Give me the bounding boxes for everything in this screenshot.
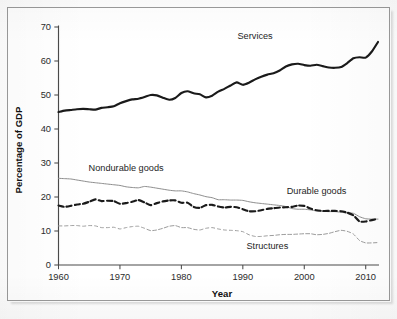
y-tick-labels: 010203040506070 <box>41 22 59 270</box>
x-tick-labels: 196019701980199020002010 <box>48 265 376 282</box>
series-lines-group <box>59 42 379 243</box>
y-tick-label: 0 <box>46 260 51 270</box>
x-axis-title: Year <box>212 288 233 299</box>
series-annotations-group: ServicesNondurable goodsDurable goodsStr… <box>89 31 347 251</box>
x-tick-label: 2010 <box>355 272 376 282</box>
series-line-durable-goods <box>59 199 379 221</box>
series-annotation-nondurable-goods: Nondurable goods <box>89 163 164 173</box>
series-line-services <box>59 42 379 112</box>
x-tick-label: 1990 <box>232 272 253 282</box>
y-axis-title: Percentage of GDP <box>13 106 24 194</box>
series-annotation-services: Services <box>237 31 273 41</box>
x-tick-label: 1960 <box>48 272 69 282</box>
y-tick-label: 20 <box>41 192 51 202</box>
series-line-nondurable-goods <box>59 178 379 219</box>
x-tick-label: 2000 <box>294 272 315 282</box>
y-tick-label: 60 <box>41 56 51 66</box>
series-annotation-structures: Structures <box>246 241 288 251</box>
figure-container: 010203040506070 196019701980199020002010… <box>0 0 397 319</box>
y-tick-label: 50 <box>41 90 51 100</box>
y-tick-label: 70 <box>41 22 51 32</box>
y-tick-label: 30 <box>41 158 51 168</box>
y-tick-label: 10 <box>41 226 51 236</box>
x-tick-label: 1980 <box>171 272 192 282</box>
y-tick-label: 40 <box>41 124 51 134</box>
series-line-structures <box>59 226 379 243</box>
series-annotation-durable-goods: Durable goods <box>287 186 347 196</box>
x-tick-label: 1970 <box>110 272 131 282</box>
line-chart: 010203040506070 196019701980199020002010… <box>0 0 397 319</box>
